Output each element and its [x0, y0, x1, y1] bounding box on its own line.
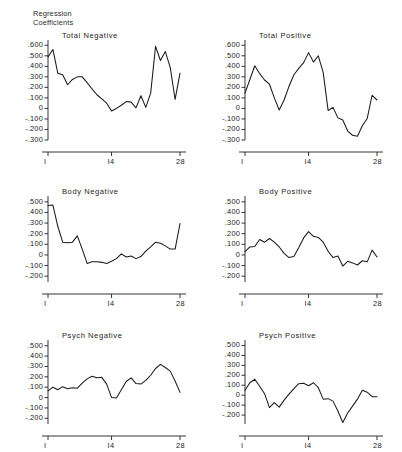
y-axis-tick-label: .200 [13, 372, 43, 381]
y-axis-tick-label: .100 [210, 93, 240, 102]
data-series-line [48, 205, 180, 263]
y-axis-tick-label: .400 [13, 207, 43, 216]
x-axis-tick-label: I4 [108, 441, 115, 450]
y-axis-tick-label: .400 [210, 207, 240, 216]
x-axis-tick-label: I [44, 299, 46, 308]
y-axis-tick-label: -.100 [13, 403, 43, 412]
x-axis-tick-label: I [241, 157, 243, 166]
y-axis-tick-label: -.100 [210, 114, 240, 123]
data-series-line [245, 232, 377, 267]
chart-plot-area [0, 0, 402, 452]
y-axis-tick-label: .500 [210, 197, 240, 206]
x-axis-tick-label: I [241, 441, 243, 450]
y-axis-tick-label: -.300 [13, 135, 43, 144]
figure-axis-header: Regression Coefficients [33, 9, 73, 27]
chart-title: Psych Negative [62, 331, 122, 340]
y-axis-tick-label: .400 [210, 350, 240, 359]
y-axis-tick-label: .300 [13, 72, 43, 81]
y-axis-tick-label: -.200 [13, 124, 43, 133]
y-axis-tick-label: -.300 [210, 135, 240, 144]
y-axis-tick-label: -.100 [210, 400, 240, 409]
y-axis-tick-label: 0 [13, 250, 43, 259]
x-axis-tick-label: I4 [305, 441, 312, 450]
y-axis-tick-label: .200 [13, 229, 43, 238]
chart-plot-area [0, 0, 402, 452]
chart-panel: Body Positive.500.400.300.200.1000-.100-… [0, 0, 402, 452]
y-axis-tick-label: .400 [13, 61, 43, 70]
y-axis-tick-label: .500 [13, 51, 43, 60]
chart-plot-area [0, 0, 402, 452]
data-series-line [48, 364, 180, 398]
chart-title: Total Negative [62, 31, 118, 40]
y-axis-tick-label: -.200 [13, 413, 43, 422]
y-axis-tick-label: .400 [13, 351, 43, 360]
x-axis-tick-label: 28 [176, 441, 185, 450]
x-axis-tick-label: I4 [305, 157, 312, 166]
chart-title: Total Positive [259, 31, 311, 40]
chart-plot-area [0, 0, 402, 452]
y-axis-tick-label: .100 [13, 239, 43, 248]
x-axis-tick-label: I4 [305, 299, 312, 308]
y-axis-tick-label: .400 [210, 61, 240, 70]
y-axis-tick-label: .200 [210, 370, 240, 379]
y-axis-tick-label: .300 [13, 218, 43, 227]
x-axis-tick-label: I4 [108, 157, 115, 166]
data-series-line [48, 46, 180, 111]
chart-panel: Total Positive.600.500.400.300.200.1000-… [0, 0, 402, 452]
y-axis-tick-label: .600 [13, 40, 43, 49]
y-axis-tick-label: .300 [210, 360, 240, 369]
y-axis-tick-label: 0 [13, 103, 43, 112]
y-axis-tick-label: .100 [210, 380, 240, 389]
y-axis-tick-label: .500 [13, 197, 43, 206]
y-axis-tick-label: .300 [210, 218, 240, 227]
y-axis-tick-label: -.100 [210, 261, 240, 270]
y-axis-tick-label: 0 [210, 390, 240, 399]
chart-panel: Total Negative.600.500.400.300.200.1000-… [0, 0, 402, 452]
y-axis-tick-label: 0 [13, 393, 43, 402]
chart-title: Body Positive [259, 187, 312, 196]
x-axis-tick-label: I4 [108, 299, 115, 308]
y-axis-tick-label: 0 [210, 250, 240, 259]
data-series-line [245, 53, 377, 137]
figure-regression-coefficients: Regression Coefficients Total Negative.6… [0, 0, 402, 452]
y-axis-tick-label: -.200 [210, 271, 240, 280]
y-axis-tick-label: 0 [210, 103, 240, 112]
y-axis-tick-label: -.100 [13, 114, 43, 123]
x-axis-tick-label: I [241, 299, 243, 308]
y-axis-tick-label: .500 [13, 341, 43, 350]
y-axis-tick-label: .500 [210, 51, 240, 60]
y-axis-tick-label: -.200 [13, 271, 43, 280]
chart-plot-area [0, 0, 402, 452]
y-axis-tick-label: .600 [210, 40, 240, 49]
y-axis-tick-label: .300 [210, 72, 240, 81]
x-axis-tick-label: 28 [176, 157, 185, 166]
x-axis-tick-label: I [44, 441, 46, 450]
y-axis-tick-label: -.100 [13, 261, 43, 270]
chart-panel: Psych Positive.500.400.300.200.1000-.100… [0, 0, 402, 452]
y-axis-tick-label: -.200 [210, 410, 240, 419]
y-axis-tick-label: .500 [210, 340, 240, 349]
y-axis-tick-label: .100 [13, 93, 43, 102]
x-axis-tick-label: 28 [373, 299, 382, 308]
y-axis-tick-label: .100 [13, 382, 43, 391]
y-axis-tick-label: .200 [13, 82, 43, 91]
y-axis-tick-label: .100 [210, 239, 240, 248]
chart-title: Body Negative [62, 187, 119, 196]
x-axis-tick-label: I [44, 157, 46, 166]
x-axis-tick-label: 28 [176, 299, 185, 308]
y-axis-tick-label: -.200 [210, 124, 240, 133]
chart-title: Psych Positive [259, 331, 316, 340]
chart-panel: Body Negative.500.400.300.200.1000-.100-… [0, 0, 402, 452]
x-axis-tick-label: 28 [373, 441, 382, 450]
y-axis-tick-label: .300 [13, 361, 43, 370]
y-axis-tick-label: .200 [210, 229, 240, 238]
chart-panel: Psych Negative.500.400.300.200.1000-.100… [0, 0, 402, 452]
data-series-line [245, 379, 377, 422]
y-axis-tick-label: .200 [210, 82, 240, 91]
chart-plot-area [0, 0, 402, 452]
x-axis-tick-label: 28 [373, 157, 382, 166]
